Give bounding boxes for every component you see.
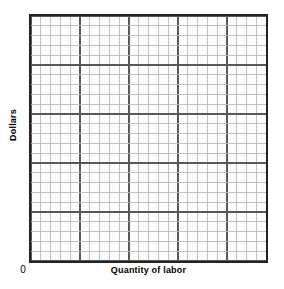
- x-axis-label: Quantity of labor: [29, 265, 268, 275]
- grid-lines: [31, 16, 266, 261]
- x-axis-label-text: Quantity of labor: [111, 265, 186, 275]
- origin-label: 0: [16, 264, 30, 275]
- y-axis-label: Dollars: [0, 0, 26, 249]
- graph-paper-figure: Dollars Quantity of labor 0: [0, 0, 284, 289]
- plot-area: [29, 14, 268, 263]
- y-axis-label-text: Dollars: [8, 109, 18, 141]
